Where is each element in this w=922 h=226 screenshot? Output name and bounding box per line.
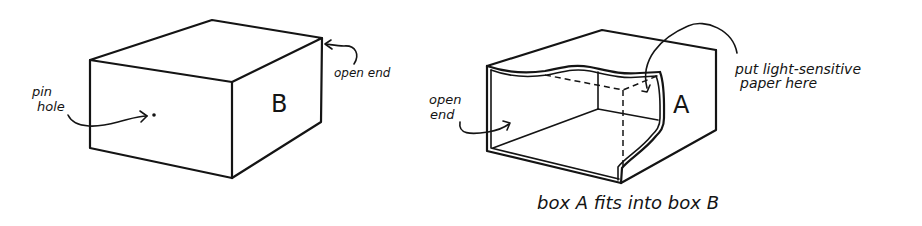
diagram-canvas: B pin hole open end: [0, 0, 922, 226]
pin-hole-label-line1: pin: [31, 84, 52, 99]
box-a-open-end-annotation: open end: [429, 92, 510, 133]
paper-annotation: put light-sensitive paper here: [642, 24, 861, 92]
paper-arrow-icon: [646, 24, 737, 88]
box-b-top-face: [90, 20, 322, 82]
pin-hole-label-line2: hole: [37, 99, 65, 114]
pin-hole-dot: [152, 113, 156, 117]
caption: box A fits into box B: [537, 192, 719, 213]
box-a-open-end-arrow-icon: [460, 122, 509, 133]
pinhole-camera-diagram: B pin hole open end: [0, 0, 922, 226]
box-a-inner-floor-left: [493, 109, 598, 148]
box-a-open-end-label-line1: open: [429, 92, 461, 107]
box-b: B: [90, 20, 322, 178]
box-a-open-end-label-line2: end: [430, 107, 455, 122]
box-a-inner-floor-right: [598, 109, 658, 120]
box-a: A: [487, 30, 716, 183]
box-a-top-edge: [487, 30, 716, 66]
box-b-letter: B: [271, 90, 287, 118]
box-b-open-end-annotation: open end: [325, 40, 391, 80]
box-b-open-end-label: open end: [334, 66, 391, 80]
pin-hole-arrow-icon: [68, 115, 147, 126]
box-a-letter: A: [673, 91, 690, 119]
paper-label-line2: paper here: [739, 75, 817, 91]
open-end-arrow-icon: [326, 44, 357, 64]
